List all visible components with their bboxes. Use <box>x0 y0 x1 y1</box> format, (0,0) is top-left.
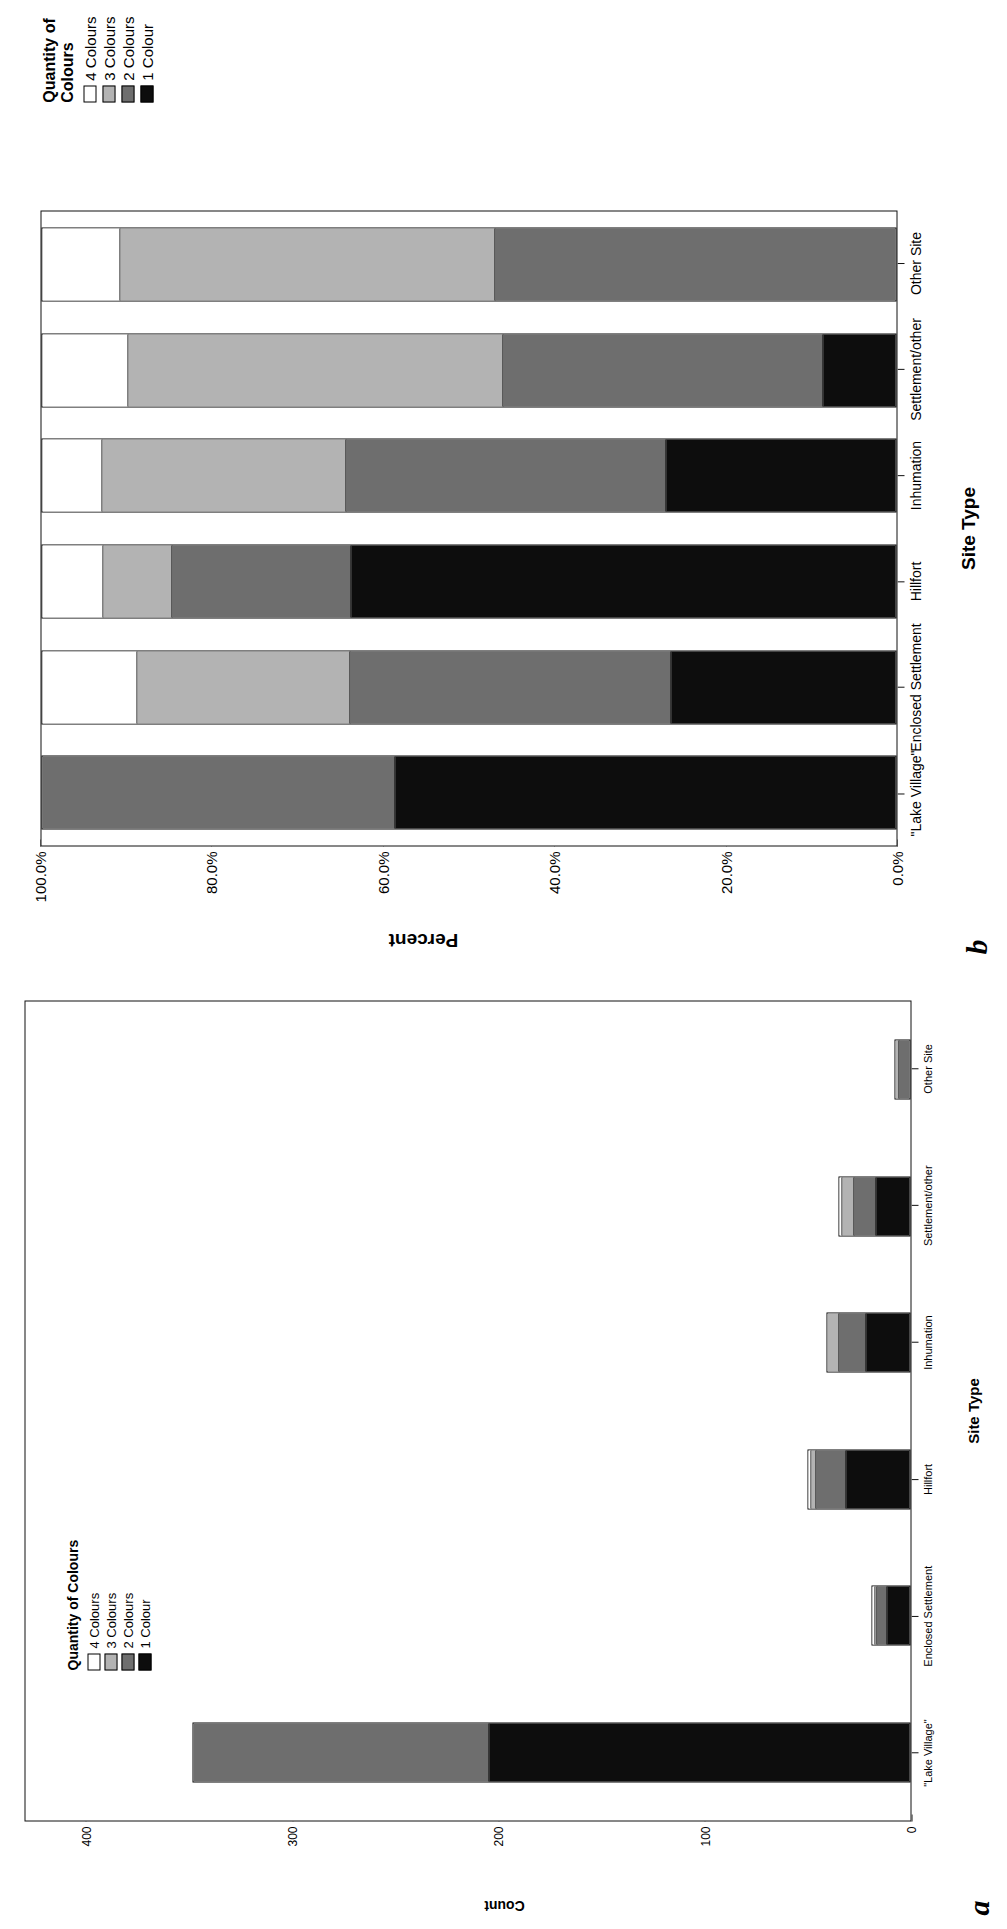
y-axis-tick-label: 100 <box>698 1821 712 1846</box>
stacked-bar[interactable] <box>41 333 896 407</box>
legend-swatch-icon <box>121 1653 134 1670</box>
panel-a-x-axis-title: Site Type <box>964 1000 981 1821</box>
bar-segment[interactable] <box>42 651 137 723</box>
y-axis-tick-label: 40.0% <box>546 846 563 894</box>
y-axis-tick-label: 80.0% <box>203 846 220 894</box>
bar-segment[interactable] <box>854 1177 876 1235</box>
bar-segment[interactable] <box>128 334 503 406</box>
panel-a-legend: Quantity of Colours 4 Colours3 Colours2 … <box>65 1539 152 1670</box>
panel-a-plot-area: Quantity of Colours 4 Colours3 Colours2 … <box>24 1000 911 1821</box>
bar-segment[interactable] <box>495 228 895 300</box>
bar-segment[interactable] <box>895 1040 899 1098</box>
y-axis-tick-label: 0.0% <box>889 846 906 885</box>
stacked-bar[interactable] <box>41 438 896 512</box>
x-axis-tick-label: Enclosed Settlement <box>921 1565 933 1666</box>
x-axis-tick-mark <box>897 581 904 582</box>
stacked-bar[interactable] <box>838 1176 910 1236</box>
x-axis-tick-mark <box>897 369 904 370</box>
y-axis-tick-label: 400 <box>79 1821 93 1846</box>
bar-group <box>41 211 896 317</box>
bar-segment[interactable] <box>42 439 103 511</box>
bar-segment[interactable] <box>876 1177 909 1235</box>
legend-item: 2 Colours <box>119 16 136 102</box>
stacked-bar[interactable] <box>41 227 896 301</box>
bar-segment[interactable] <box>489 1723 909 1781</box>
bar-segment[interactable] <box>671 651 895 723</box>
legend-item: 1 Colour <box>138 16 155 102</box>
bar-segment[interactable] <box>172 545 352 617</box>
stacked-bar[interactable] <box>826 1312 910 1372</box>
x-axis-tick-mark <box>911 1205 918 1206</box>
bar-segment[interactable] <box>103 545 172 617</box>
x-axis-tick-mark <box>911 1752 918 1753</box>
bar-group <box>25 1411 910 1547</box>
bar-group <box>41 317 896 423</box>
x-axis-tick-mark <box>911 1615 918 1616</box>
stacked-bar[interactable] <box>871 1585 910 1645</box>
y-axis-tick: 200 <box>491 1821 505 1846</box>
bar-segment[interactable] <box>102 439 345 511</box>
legend-item-label: 4 Colours <box>81 16 98 80</box>
bar-segment[interactable] <box>42 228 120 300</box>
x-axis-tick-mark <box>911 1068 918 1069</box>
bar-group <box>25 1547 910 1683</box>
y-axis-tick: 40.0% <box>546 846 563 894</box>
x-axis-tick: Settlement/other <box>897 318 923 421</box>
bar-segment[interactable] <box>503 334 823 406</box>
bar-segment[interactable] <box>877 1586 887 1644</box>
x-axis-tick-mark <box>897 687 904 688</box>
bar-segment[interactable] <box>823 334 895 406</box>
stacked-bar[interactable] <box>807 1449 910 1509</box>
y-axis-tick: 400 <box>79 1821 93 1846</box>
panel-b-x-axis-title: Site Type <box>957 210 979 846</box>
x-axis-tick-label: Inhumation <box>907 440 923 509</box>
bar-segment[interactable] <box>866 1313 909 1371</box>
bar-segment[interactable] <box>42 545 103 617</box>
bar-segment[interactable] <box>42 334 128 406</box>
legend-item: 4 Colours <box>81 16 98 102</box>
legend-item-label: 3 Colours <box>100 16 117 80</box>
bar-segment[interactable] <box>395 756 895 828</box>
stacked-bar[interactable] <box>192 1722 910 1782</box>
bar-segment[interactable] <box>137 651 351 723</box>
x-axis-tick-mark <box>911 1478 918 1479</box>
bar-group <box>25 1001 910 1137</box>
bar-segment[interactable] <box>350 651 671 723</box>
legend-item-label: 2 Colours <box>119 16 136 80</box>
bar-segment[interactable] <box>351 545 895 617</box>
bar-segment[interactable] <box>42 756 395 828</box>
stacked-bar[interactable] <box>41 544 896 618</box>
y-axis-tick-label: 300 <box>285 1821 299 1846</box>
bar-segment[interactable] <box>887 1586 909 1644</box>
x-axis-tick-label: "Lake Village" <box>921 1719 933 1787</box>
x-axis-tick-mark <box>897 475 904 476</box>
x-axis-tick: Inhumation <box>911 1315 933 1369</box>
y-axis-tick: 300 <box>285 1821 299 1846</box>
figure-canvas: a Count Site Type 4003002001000 "Lake Vi… <box>0 0 1007 1929</box>
bar-group <box>25 1274 910 1410</box>
stacked-bar[interactable] <box>41 755 896 829</box>
bar-segment[interactable] <box>846 1450 909 1508</box>
bar-segment[interactable] <box>842 1177 854 1235</box>
panel-b-plot-area <box>40 210 897 846</box>
bar-segment[interactable] <box>816 1450 846 1508</box>
stacked-bar[interactable] <box>41 650 896 724</box>
legend-swatch-icon <box>102 85 115 102</box>
bar-group <box>25 1138 910 1274</box>
legend-swatch-icon <box>121 85 134 102</box>
bar-segment[interactable] <box>811 1450 816 1508</box>
bar-segment[interactable] <box>839 1313 865 1371</box>
bar-segment[interactable] <box>120 228 495 300</box>
bar-group <box>41 528 896 634</box>
bar-segment[interactable] <box>666 439 896 511</box>
y-axis-tick: 0 <box>904 1821 918 1833</box>
bar-group <box>41 634 896 740</box>
bar-segment[interactable] <box>193 1723 489 1781</box>
bar-segment[interactable] <box>899 1040 909 1098</box>
y-axis-tick-label: 0 <box>904 1821 918 1833</box>
stacked-bar[interactable] <box>894 1039 910 1099</box>
bar-segment[interactable] <box>346 439 666 511</box>
bar-group <box>41 739 896 845</box>
panel-b-legend: Quantity of Colours 4 Colours3 Colours2 … <box>40 16 155 102</box>
bar-segment[interactable] <box>827 1313 840 1371</box>
